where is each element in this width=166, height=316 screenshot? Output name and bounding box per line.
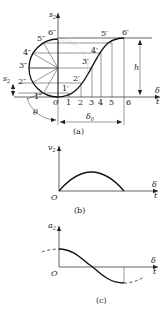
s2-side-label: s2 <box>3 74 10 84</box>
figure-a-displacement: h s2 θ δ0 s2 δ t 0 1 2 3 4 5 6 1′ 2′ 3′ <box>3 10 160 136</box>
svg-text:1′: 1′ <box>62 84 69 93</box>
svg-text:6′: 6′ <box>122 28 129 37</box>
svg-text:3: 3 <box>89 98 94 107</box>
tick-labels: 0 1 2 3 4 5 6 <box>53 98 131 107</box>
delta-axis-label: δ <box>155 86 160 95</box>
svg-text:3′: 3′ <box>82 57 89 66</box>
circle-point-labels: 1″ 2″ 3″ 4″ 5″ 6″ <box>18 28 56 101</box>
delta0-label: δ0 <box>86 112 95 122</box>
caption-a: (a) <box>73 127 84 136</box>
v2-axis-label: v2 <box>48 143 56 153</box>
svg-text:6: 6 <box>126 98 131 107</box>
svg-text:6″: 6″ <box>48 28 56 37</box>
caption-c: (c) <box>96 296 107 305</box>
svg-text:4′: 4′ <box>91 46 98 55</box>
figure-c-acceleration: a2 O δ t (c) <box>42 221 158 305</box>
h-label: h <box>134 63 139 72</box>
svg-text:3″: 3″ <box>19 61 27 70</box>
acceleration-curve <box>59 249 124 283</box>
origin-label-b: O <box>51 193 58 202</box>
svg-text:1″: 1″ <box>34 92 42 101</box>
svg-text:5: 5 <box>109 98 114 107</box>
svg-text:0: 0 <box>53 98 58 107</box>
theta-arc <box>27 98 56 120</box>
svg-text:5″: 5″ <box>37 34 45 43</box>
acceleration-dash-right <box>124 277 144 283</box>
svg-text:2: 2 <box>78 98 83 107</box>
s2-axis-label: s2 <box>49 10 56 20</box>
svg-text:2′: 2′ <box>73 74 80 83</box>
a2-axis-label: a2 <box>48 221 56 231</box>
cam-motion-diagram: h s2 θ δ0 s2 δ t 0 1 2 3 4 5 6 1′ 2′ 3′ <box>0 0 166 316</box>
caption-b: (b) <box>74 206 85 215</box>
svg-text:4: 4 <box>98 98 103 107</box>
delta-label-c: δ <box>151 256 156 265</box>
svg-text:2″: 2″ <box>18 77 26 86</box>
velocity-curve <box>59 172 124 191</box>
svg-text:1: 1 <box>66 98 71 107</box>
svg-text:4″: 4″ <box>23 48 31 57</box>
t-label-c: t <box>153 267 157 276</box>
t-axis-label: t <box>156 97 160 106</box>
figure-b-velocity: v2 O δ t (b) <box>48 143 158 215</box>
t-label-b: t <box>154 191 158 200</box>
svg-text:5′: 5′ <box>101 29 108 38</box>
acceleration-dash-left <box>42 249 59 252</box>
theta-label: θ <box>33 108 38 117</box>
origin-label-c: O <box>51 269 58 278</box>
delta-label-b: δ <box>152 180 157 189</box>
